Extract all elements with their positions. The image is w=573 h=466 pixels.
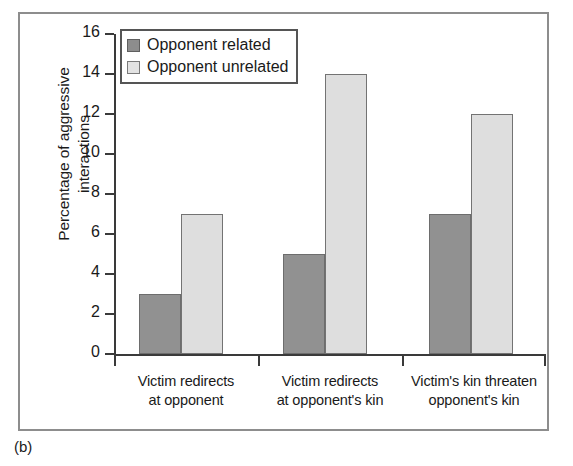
x-axis-group-label-line: opponent's kin — [394, 391, 554, 410]
y-axis-tick: 6 — [105, 233, 114, 235]
x-axis-group-label-3: Victim's kin threatenopponent's kin — [394, 372, 554, 410]
y-axis-tick-label: 14 — [82, 62, 100, 82]
bar-opponent-related-group-3 — [429, 214, 471, 354]
bar-opponent-related-group-1 — [139, 294, 181, 354]
y-axis-tick: 2 — [105, 313, 114, 315]
bar-opponent-unrelated-group-1 — [181, 214, 223, 354]
y-axis-tick-label: 6 — [91, 222, 100, 242]
plot-area: 0246810121416 Victim redirectsat opponen… — [114, 34, 546, 375]
legend-swatch-related-icon — [127, 39, 140, 52]
x-axis-group-label-line: at opponent — [106, 391, 266, 410]
figure-caption: (b) — [14, 437, 32, 457]
x-axis-group-label-line: Victim's kin threaten — [394, 372, 554, 391]
chart-frame: Percentage of aggressive interactions 02… — [18, 12, 549, 431]
y-axis-tick-label: 8 — [91, 182, 100, 202]
legend-swatch-unrelated-icon — [127, 61, 140, 74]
x-axis-group-label-line: at opponent's kin — [250, 391, 410, 410]
y-axis-tick: 14 — [105, 73, 114, 75]
legend-item-2: Opponent unrelated — [127, 56, 288, 78]
x-axis-tick — [114, 356, 116, 366]
bar-opponent-unrelated-group-2 — [325, 74, 367, 354]
chart-legend: Opponent relatedOpponent unrelated — [120, 29, 298, 84]
y-axis-tick-label: 12 — [82, 102, 100, 122]
y-axis-title-line-1: Percentage of aggressive — [54, 67, 74, 240]
x-axis-group-label-1: Victim redirectsat opponent — [106, 372, 266, 410]
x-axis-tick — [402, 356, 404, 366]
x-axis-tick — [258, 356, 260, 366]
x-axis-tick — [544, 356, 546, 366]
y-axis-tick-label: 10 — [82, 142, 100, 162]
figure-panel-b: Percentage of aggressive interactions 02… — [0, 0, 573, 466]
y-axis-tick: 0 — [105, 353, 114, 355]
y-axis-tick-label: 2 — [91, 302, 100, 322]
bar-opponent-related-group-2 — [283, 254, 325, 354]
y-axis-tick: 12 — [105, 113, 114, 115]
bar-opponent-unrelated-group-3 — [471, 114, 513, 354]
legend-label: Opponent related — [147, 35, 271, 55]
y-axis-tick-label: 0 — [91, 342, 100, 362]
x-axis-line — [114, 354, 546, 356]
y-axis-tick: 4 — [105, 273, 114, 275]
y-axis-tick: 10 — [105, 153, 114, 155]
y-axis-tick-label: 16 — [82, 22, 100, 42]
y-axis-tick-label: 4 — [91, 262, 100, 282]
y-axis-tick: 16 — [105, 33, 114, 35]
x-axis-group-label-line: Victim redirects — [250, 372, 410, 391]
x-axis-group-label-line: Victim redirects — [106, 372, 266, 391]
legend-item-1: Opponent related — [127, 34, 288, 56]
x-axis-group-label-2: Victim redirectsat opponent's kin — [250, 372, 410, 410]
y-axis-tick: 8 — [105, 193, 114, 195]
legend-label: Opponent unrelated — [147, 57, 288, 77]
